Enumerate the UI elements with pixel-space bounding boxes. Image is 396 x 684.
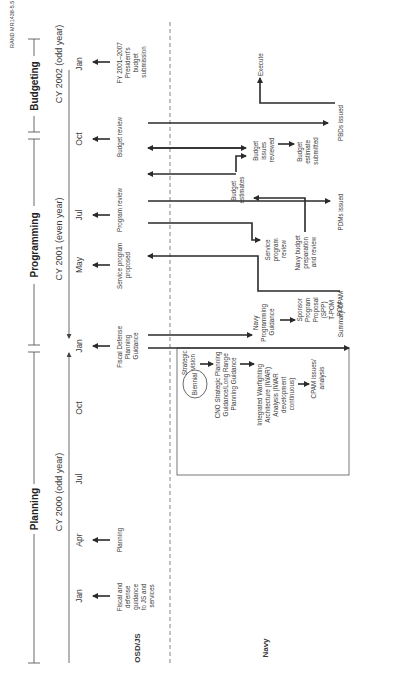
- navy-service-program-review: Service program review: [264, 236, 287, 261]
- navy-budget-estimates: Budget estimates: [230, 177, 245, 204]
- osd-service-program-proposed: Service program proposed: [116, 241, 132, 289]
- navy-pbds-issued: PBDs issued: [337, 104, 344, 141]
- svg-text:Jul: Jul: [74, 209, 84, 220]
- navy-pdms-issued: PDMs issued: [337, 193, 344, 231]
- osd-planning: Planning: [116, 527, 124, 552]
- phase-bar: Planning Programming Budgeting: [28, 39, 40, 663]
- svg-text:Jan: Jan: [74, 589, 84, 603]
- osd-budget-review: Budget review: [116, 117, 124, 157]
- ppbs-timeline-diagram: RAND MR1438-5.5 Planning Programming Bud…: [0, 0, 396, 684]
- month-arrows: [93, 62, 110, 596]
- phase-budgeting: Budgeting: [29, 61, 40, 110]
- svg-text:May: May: [74, 256, 84, 273]
- month-labels: Jan Apr Jul Oct Jan May Jul Oct Jan: [74, 57, 84, 603]
- svg-text:Oct: Oct: [74, 132, 84, 146]
- navy-sponsor-program-proposal: Sponsor Program Proposal (SPP) T-POM POM: [296, 296, 343, 323]
- navy-strategic-vision: Strategic vision: [181, 349, 196, 376]
- navy-cpam-issues: CPAM issues/ analysis: [310, 358, 326, 399]
- osd-fdpg: Fiscal Defense Planning Guidance: [116, 324, 139, 367]
- navy-iwar: Integrated Warfighting Architecture (IWA…: [256, 362, 296, 425]
- svg-text:Oct: Oct: [74, 401, 84, 415]
- figure-id: RAND MR1438-5.5: [9, 1, 15, 48]
- osd-fiscal-defense-guidance: Fiscal and defense guidance to JS and se…: [116, 581, 155, 611]
- osd-presidents-budget: FY 2001–2007 President's budget submissi…: [116, 41, 147, 84]
- year-cy2002: CY 2002 (odd year): [54, 25, 64, 103]
- phase-planning: Planning: [29, 488, 40, 530]
- biennial-label: Biennial: [191, 373, 198, 395]
- navy-budget-prep: Navy budget preparation and review: [294, 233, 317, 270]
- year-cy2000: CY 2000 (odd year): [54, 453, 64, 531]
- navy-budget-estimate-submitted: Budget estimate submitted: [296, 137, 319, 165]
- svg-text:Jul: Jul: [74, 473, 84, 484]
- navy-programming-guidance: Navy Programming Guidance: [252, 302, 275, 342]
- phase-programming: Programming: [29, 212, 40, 277]
- navy-execute: Execute: [257, 53, 264, 76]
- row-label-navy: Navy: [261, 638, 270, 658]
- row-label-osd-js: OSD/JS: [133, 633, 142, 663]
- osd-program-review: Program review: [116, 188, 124, 233]
- svg-text:Apr: Apr: [74, 533, 84, 546]
- rotated-figure: RAND MR1438-5.5 Planning Programming Bud…: [0, 0, 396, 684]
- svg-text:Jan: Jan: [74, 339, 84, 353]
- svg-text:Jan: Jan: [74, 57, 84, 71]
- navy-cno-guidance: CNO Strategic Planning Guidance/Long Ran…: [214, 350, 238, 419]
- navy-budget-issues-reviewed: Budget issues reviewed: [252, 137, 275, 163]
- year-cy2001: CY 2001 (even year): [54, 198, 64, 281]
